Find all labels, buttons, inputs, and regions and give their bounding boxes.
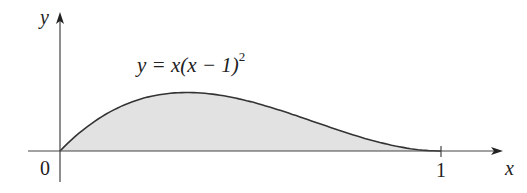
equation-text: y = x(x − 1) xyxy=(137,53,239,77)
origin-label: 0 xyxy=(40,157,50,180)
equation-exponent: 2 xyxy=(239,49,246,64)
y-axis-label: y xyxy=(40,6,49,29)
graph-canvas xyxy=(0,0,527,193)
x-axis-label: x xyxy=(505,157,514,180)
equation-label: y = x(x − 1)2 xyxy=(137,52,245,78)
tick-label-1: 1 xyxy=(436,159,446,182)
